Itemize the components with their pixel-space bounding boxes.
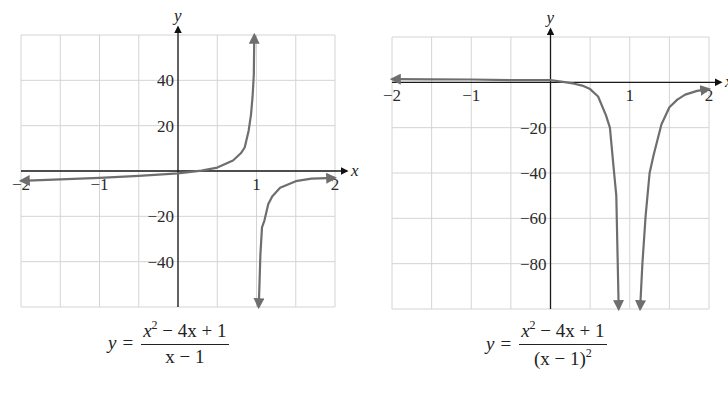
right-equation-caption: y = x2 − 4x + 1 (x − 1)2 (486, 318, 607, 370)
y-tick-label: −60 (520, 209, 547, 228)
caption-numerator: x2 − 4x + 1 (519, 318, 606, 345)
x-tick-label: −2 (383, 86, 401, 105)
x-axis-label: x (724, 72, 728, 91)
curve-right-branch (640, 89, 709, 309)
den-base: (x − 1) (534, 348, 586, 369)
y-tick-label: −40 (520, 164, 547, 183)
x-tick-label: −2 (12, 175, 30, 194)
den-exponent: 2 (586, 346, 592, 360)
y-tick-label: −20 (147, 207, 174, 226)
left-equation-caption: y = x2 − 4x + 1 x − 1 (108, 318, 229, 368)
y-tick-label: −20 (520, 119, 547, 138)
caption-equals: = (500, 333, 511, 355)
y-tick-label: −40 (147, 253, 174, 272)
caption-equals: = (122, 332, 133, 354)
curve-right-branch (259, 178, 335, 307)
y-tick-label: 40 (157, 71, 174, 90)
y-axis-label: y (545, 8, 555, 27)
x-tick-label: −1 (462, 86, 480, 105)
y-tick-label: 20 (157, 117, 174, 136)
num-var: x (521, 320, 529, 341)
caption-numerator: x2 − 4x + 1 (141, 318, 228, 345)
caption-denominator: (x − 1)2 (534, 345, 592, 370)
caption-lhs: y (108, 332, 116, 354)
x-tick-label: 1 (626, 86, 635, 105)
caption-fraction: x2 − 4x + 1 (x − 1)2 (519, 318, 606, 370)
curve-left-branch (392, 79, 619, 309)
right-graph-panel: xy−2−112−20−40−60−80 y = x2 − 4x + 1 (x … (364, 0, 728, 396)
num-rest: − 4x + 1 (158, 320, 227, 341)
left-graph-panel: xy−2−1124020−20−40 y = x2 − 4x + 1 x − 1 (0, 0, 364, 396)
caption-lhs: y (486, 333, 494, 355)
left-plot: xy−2−1124020−20−40 (0, 0, 364, 320)
caption-fraction: x2 − 4x + 1 x − 1 (141, 318, 228, 368)
y-axis-label: y (172, 6, 182, 25)
x-axis-label: x (350, 161, 359, 180)
y-tick-label: −80 (520, 255, 547, 274)
x-tick-label: 1 (252, 175, 261, 194)
caption-denominator: x − 1 (165, 345, 204, 368)
right-plot: xy−2−112−20−40−60−80 (364, 0, 728, 320)
num-rest: − 4x + 1 (536, 320, 605, 341)
num-var: x (143, 320, 151, 341)
curve-left-branch (21, 35, 254, 181)
